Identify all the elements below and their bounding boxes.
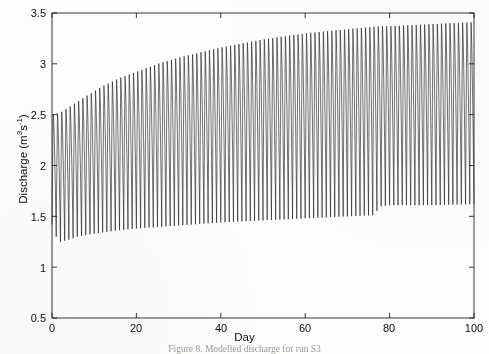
discharge-chart (0, 0, 489, 354)
y-tick-5: 3 (18, 58, 46, 70)
y-tick-6: 3.5 (18, 7, 46, 19)
y-axis-label-suffix: ) (17, 114, 29, 118)
figure-panel: 0.5 1 1.5 2 2.5 3 3.5 0 20 40 60 80 100 … (0, 0, 489, 354)
discharge-series-line (52, 22, 474, 241)
figure-caption: Figure 8. Modelled discharge for run S3 (0, 344, 489, 354)
x-axis-label: Day (0, 331, 489, 343)
y-axis-label: Discharge (m3s-1) (15, 89, 29, 229)
y-tick-1: 1 (18, 262, 46, 274)
y-axis-label-mid: s (17, 125, 29, 131)
y-axis-label-prefix: Discharge (m (17, 135, 29, 203)
y-axis-label-exp-neg1: -1 (15, 118, 24, 125)
y-axis-label-exp-3: 3 (15, 131, 24, 135)
